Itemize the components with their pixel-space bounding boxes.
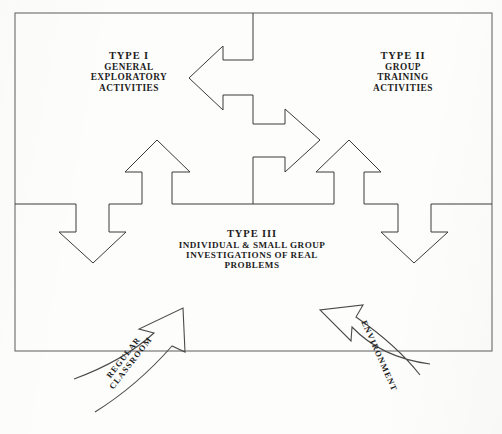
type-1-block: TYPE I GENERAL EXPLORATORY ACTIVITIES bbox=[44, 50, 214, 93]
type-2-line-1: GROUP bbox=[318, 62, 488, 72]
type-1-line-3: ACTIVITIES bbox=[44, 83, 214, 93]
type-3-line-1: INDIVIDUAL & SMALL GROUP bbox=[152, 240, 352, 250]
down-arrow-right bbox=[364, 204, 492, 263]
type-3-heading: TYPE III bbox=[152, 228, 352, 240]
up-arrow-right bbox=[316, 140, 381, 204]
type-1-heading: TYPE I bbox=[44, 50, 214, 62]
type-2-line-3: ACTIVITIES bbox=[318, 83, 488, 93]
type-2-block: TYPE II GROUP TRAINING ACTIVITIES bbox=[318, 50, 488, 93]
type-3-block: TYPE III INDIVIDUAL & SMALL GROUP INVEST… bbox=[152, 228, 352, 270]
type-3-line-2: INVESTIGATIONS OF REAL bbox=[152, 250, 352, 260]
type-2-heading: TYPE II bbox=[318, 50, 488, 62]
up-arrow-left bbox=[125, 140, 190, 204]
type-1-line-1: GENERAL bbox=[44, 62, 214, 72]
double-headed-z-arrow bbox=[189, 13, 320, 204]
type-2-line-2: TRAINING bbox=[318, 72, 488, 82]
type-3-line-3: PROBLEMS bbox=[152, 260, 352, 270]
down-arrow-left bbox=[15, 204, 142, 263]
type-1-line-2: EXPLORATORY bbox=[44, 72, 214, 82]
diagram-canvas: TYPE I GENERAL EXPLORATORY ACTIVITIES TY… bbox=[0, 0, 502, 434]
